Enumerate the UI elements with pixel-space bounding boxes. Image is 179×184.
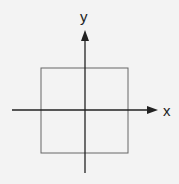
y-axis-label: y [80, 8, 88, 25]
y-axis-arrow-icon [81, 30, 89, 41]
x-axis-label: x [163, 102, 171, 119]
diagram-canvas: y x [0, 0, 179, 184]
x-axis-arrow-icon [147, 106, 158, 114]
